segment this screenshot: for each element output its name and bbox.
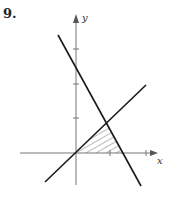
decreasing-line — [58, 35, 141, 186]
y-axis-arrow-icon — [73, 14, 79, 23]
graph: y x — [0, 0, 169, 200]
y-axis — [73, 14, 79, 185]
y-axis-label: y — [81, 12, 88, 23]
x-axis-label: x — [157, 155, 163, 166]
